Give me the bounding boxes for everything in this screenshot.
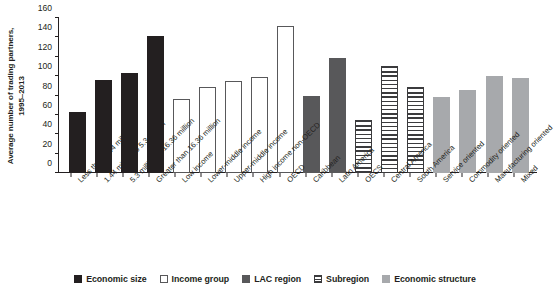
bar-slot	[299, 18, 325, 173]
x-axis-label-slot: OECD	[273, 177, 299, 257]
x-axis-label-slot: Service oriented	[429, 177, 455, 257]
x-axis-label-slot: 1.44 million to 5.3 million	[90, 177, 116, 257]
legend-item[interactable]: LAC region	[242, 274, 301, 284]
legend-swatch-icon	[382, 275, 390, 283]
x-axis-labels: Less than 1.44 million1.44 million to 5.…	[59, 177, 537, 257]
bar[interactable]	[69, 112, 86, 173]
x-axis-label-slot: 5.3 million to 16.36 million	[116, 177, 142, 257]
chart-legend: Economic sizeIncome groupLAC regionSubre…	[0, 274, 550, 284]
x-axis-label-slot: OECS	[351, 177, 377, 257]
x-axis-label-slot: Lower-middle income	[194, 177, 220, 257]
x-axis-label-slot: South America	[403, 177, 429, 257]
legend-item[interactable]: Economic structure	[382, 274, 476, 284]
x-axis-label-slot: Low income	[168, 177, 194, 257]
x-axis-label-slot: Upper-middle income	[220, 177, 246, 257]
x-axis-label-slot: Manufacturing oriented	[481, 177, 507, 257]
y-axis-tick-label: 120	[38, 42, 52, 52]
legend-item[interactable]: Income group	[160, 274, 230, 284]
x-axis-label-slot: Commodity oriented	[455, 177, 481, 257]
bar-slot	[377, 18, 403, 173]
y-axis-tick-label: 60	[42, 100, 52, 110]
legend-swatch-icon	[314, 275, 322, 283]
legend-label: Income group	[172, 274, 230, 284]
x-axis-label-slot: High income non-OECD	[246, 177, 272, 257]
legend-label: Economic size	[86, 274, 146, 284]
legend-item[interactable]: Economic size	[74, 274, 146, 284]
bar[interactable]	[381, 66, 398, 173]
legend-swatch-icon	[74, 275, 82, 283]
x-axis-label-slot: Caribbean	[299, 177, 325, 257]
legend-label: Subregion	[326, 274, 369, 284]
bar-slot	[64, 18, 90, 173]
y-axis-title: Average number of trading partners, 1995…	[2, 18, 32, 174]
y-axis-tick-label: 0	[47, 158, 52, 168]
legend-label: LAC region	[254, 274, 301, 284]
y-axis-tick-label: 40	[42, 119, 52, 129]
y-axis-tick-label: 100	[38, 61, 52, 71]
bar-slot	[325, 18, 351, 173]
x-axis-label-slot: Mixed	[507, 177, 533, 257]
y-axis-tick-label: 80	[42, 81, 52, 91]
x-axis-label-slot: Greater than 16.36 million	[142, 177, 168, 257]
x-axis-label-slot: Latin America	[325, 177, 351, 257]
legend-label: Economic structure	[394, 274, 476, 284]
legend-swatch-icon	[242, 275, 250, 283]
y-axis-tick-label: 20	[42, 139, 52, 149]
legend-item[interactable]: Subregion	[314, 274, 369, 284]
legend-swatch-icon	[160, 275, 168, 283]
x-axis-label-slot: Less than 1.44 million	[64, 177, 90, 257]
x-axis-label-slot: Central America	[377, 177, 403, 257]
y-axis-tick-label: 140	[38, 22, 52, 32]
y-axis-tick-label: 160	[38, 3, 52, 13]
